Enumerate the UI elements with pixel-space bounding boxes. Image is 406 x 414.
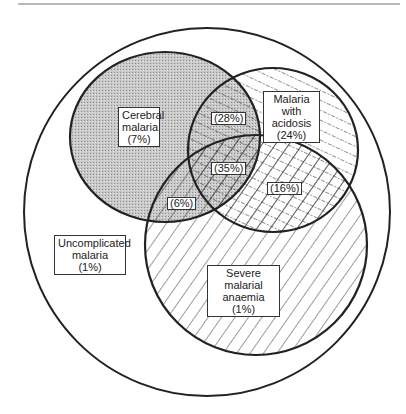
overlap-all-three: (35%) xyxy=(211,162,246,175)
label-line: malaria xyxy=(58,249,122,261)
overlap-acidosis-anaemia: (16%) xyxy=(267,182,302,195)
overlap-cerebral-acidosis: (28%) xyxy=(211,112,246,125)
label-pct: (7%) xyxy=(122,133,156,145)
label-pct: (24%) xyxy=(267,129,316,141)
label-line: Malaria with xyxy=(267,93,316,117)
label-uncomplicated-malaria: Uncomplicated malaria (1%) xyxy=(54,235,126,275)
label-line: anaemia (1%) xyxy=(211,291,276,315)
label-line: acidosis xyxy=(267,117,316,129)
label-line: Severe malarial xyxy=(211,267,276,291)
overlap-cerebral-anaemia: (6%) xyxy=(167,197,196,210)
label-line: malaria xyxy=(122,121,156,133)
label-cerebral-malaria: Cerebral malaria (7%) xyxy=(118,107,160,147)
label-pct: (1%) xyxy=(58,261,122,273)
label-malaria-with-acidosis: Malaria with acidosis (24%) xyxy=(263,91,320,143)
label-line: Cerebral xyxy=(122,109,156,121)
venn-diagram xyxy=(0,0,406,414)
label-severe-malarial-anaemia: Severe malarial anaemia (1%) xyxy=(207,265,280,317)
label-line: Uncomplicated xyxy=(58,237,122,249)
